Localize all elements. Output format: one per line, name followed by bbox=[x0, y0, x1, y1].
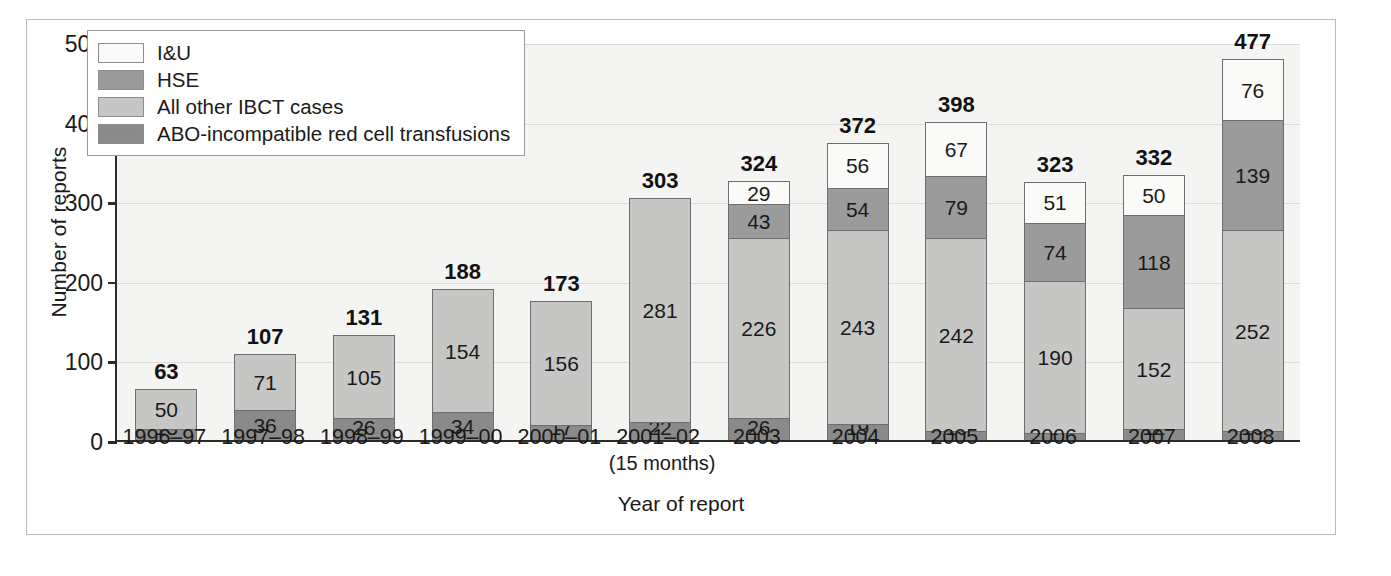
x-tick-label: 2004 bbox=[806, 424, 905, 451]
bar-segment-value: 281 bbox=[643, 300, 678, 321]
x-tick-label-text: 2005 bbox=[930, 425, 978, 449]
bar-segment-value: 139 bbox=[1235, 165, 1270, 186]
x-tick-label: 2005 bbox=[905, 424, 1004, 451]
bar-segment[interactable]: 54 bbox=[828, 189, 888, 232]
bar-segment-value: 50 bbox=[1142, 185, 1165, 206]
bar-segment[interactable]: 156 bbox=[531, 302, 591, 426]
bar-segment[interactable]: 281 bbox=[630, 199, 690, 423]
legend-item[interactable]: I&U bbox=[98, 39, 510, 66]
x-tick-label: 1998–99 bbox=[313, 424, 412, 451]
bar-segment[interactable]: 154 bbox=[433, 290, 493, 413]
chart-legend: I&UHSEAll other IBCT casesABO-incompatib… bbox=[87, 30, 525, 156]
y-tick-label: 200 bbox=[65, 269, 103, 296]
bar-segment[interactable]: 71 bbox=[235, 355, 295, 412]
x-tick-label: 2001–02(15 months) bbox=[609, 424, 708, 476]
bar-segment-value: 67 bbox=[945, 139, 968, 160]
bar-segment-value: 56 bbox=[846, 155, 869, 176]
x-axis-title: Year of report bbox=[27, 492, 1335, 516]
x-tick-label: 1997–98 bbox=[214, 424, 313, 451]
legend-item[interactable]: HSE bbox=[98, 66, 510, 93]
bar-segment-value: 154 bbox=[445, 341, 480, 362]
y-tick-mark bbox=[108, 282, 117, 285]
x-tick-label-text: 2001–02 bbox=[616, 425, 700, 449]
legend-item-label: HSE bbox=[157, 68, 199, 92]
x-tick-label: 2003 bbox=[708, 424, 807, 451]
x-tick-label-text: 2007 bbox=[1128, 425, 1176, 449]
x-tick-label-text: 2004 bbox=[832, 425, 880, 449]
bar-segment[interactable]: 226 bbox=[729, 239, 789, 419]
bar-segment[interactable]: 118 bbox=[1124, 216, 1184, 310]
bar-stack[interactable]: 192435456372 bbox=[827, 143, 889, 440]
legend-item-label: I&U bbox=[157, 41, 191, 65]
bar-segment[interactable]: 43 bbox=[729, 205, 789, 239]
bar-stack[interactable]: 1215211850332 bbox=[1123, 175, 1185, 440]
bar-total-label: 173 bbox=[543, 271, 580, 297]
legend-item[interactable]: All other IBCT cases bbox=[98, 93, 510, 120]
bar-segment[interactable]: 252 bbox=[1223, 231, 1283, 432]
x-tick-label-text: 1999–00 bbox=[419, 425, 503, 449]
figure-frame: Number of reports Year of report 0100200… bbox=[26, 19, 1336, 535]
legend-color-swatch bbox=[98, 124, 144, 144]
bar-segment[interactable]: 74 bbox=[1025, 224, 1085, 283]
legend-item[interactable]: ABO-incompatible red cell transfusions bbox=[98, 120, 510, 147]
bar-segment[interactable]: 152 bbox=[1124, 309, 1184, 430]
bar-segment[interactable]: 105 bbox=[334, 336, 394, 420]
bar-total-label: 324 bbox=[741, 151, 778, 177]
bar-segment[interactable]: 243 bbox=[828, 231, 888, 424]
bar-segment-value: 156 bbox=[544, 353, 579, 374]
bar-segment-value: 43 bbox=[747, 211, 770, 232]
bar-total-label: 188 bbox=[444, 259, 481, 285]
x-tick-label-text: 2003 bbox=[733, 425, 781, 449]
bar-segment[interactable]: 139 bbox=[1223, 121, 1283, 232]
bar-total-label: 63 bbox=[154, 359, 178, 385]
bar-stack[interactable]: 81907451323 bbox=[1024, 182, 1086, 440]
bar-segment-value: 226 bbox=[741, 318, 776, 339]
y-tick-mark bbox=[108, 361, 117, 364]
bar-total-label: 477 bbox=[1234, 29, 1271, 55]
x-tick-label-text: 2000–01 bbox=[518, 425, 602, 449]
bar-total-label: 398 bbox=[938, 92, 975, 118]
y-tick-label: 0 bbox=[90, 429, 103, 456]
bar-segment-value: 252 bbox=[1235, 321, 1270, 342]
y-tick-mark bbox=[108, 202, 117, 205]
bar-stack[interactable]: 102427967398 bbox=[925, 122, 987, 440]
bar-segment-value: 71 bbox=[253, 372, 276, 393]
legend-color-swatch bbox=[98, 97, 144, 117]
bar-segment[interactable]: 56 bbox=[828, 144, 888, 189]
bar-segment[interactable]: 50 bbox=[1124, 176, 1184, 216]
bar-segment[interactable]: 190 bbox=[1025, 282, 1085, 433]
bar-stack[interactable]: 34154188 bbox=[432, 289, 494, 440]
bar-total-label: 131 bbox=[346, 305, 383, 331]
bar-stack[interactable]: 1025213976477 bbox=[1222, 59, 1284, 440]
x-tick-sublabel: (15 months) bbox=[609, 451, 708, 476]
legend-item-label: All other IBCT cases bbox=[157, 95, 343, 119]
bar-segment-value: 243 bbox=[840, 317, 875, 338]
bar-stack[interactable]: 262264329324 bbox=[728, 181, 790, 440]
bar-stack[interactable]: 17156173 bbox=[530, 301, 592, 440]
x-tick-label-text: 2008 bbox=[1227, 425, 1275, 449]
bar-segment-value: 118 bbox=[1137, 252, 1170, 273]
x-tick-label: 2008 bbox=[1201, 424, 1300, 451]
bar-segment-value: 76 bbox=[1241, 80, 1264, 101]
bar-segment-value: 190 bbox=[1038, 347, 1073, 368]
bar-segment-value: 54 bbox=[846, 199, 869, 220]
bar-total-label: 107 bbox=[247, 324, 284, 350]
bar-segment[interactable]: 29 bbox=[729, 182, 789, 205]
bar-segment[interactable]: 67 bbox=[926, 123, 986, 176]
bar-segment-value: 51 bbox=[1043, 192, 1066, 213]
x-tick-label: 2006 bbox=[1004, 424, 1103, 451]
bar-segment[interactable]: 242 bbox=[926, 239, 986, 432]
bar-segment[interactable]: 51 bbox=[1025, 183, 1085, 224]
bar-stack[interactable]: 22281303 bbox=[629, 198, 691, 440]
x-tick-label-text: 1996–97 bbox=[123, 425, 207, 449]
bar-segment-value: 50 bbox=[155, 399, 178, 420]
x-tick-label-text: 1997–98 bbox=[221, 425, 305, 449]
bar-segment[interactable]: 76 bbox=[1223, 60, 1283, 120]
bar-total-label: 372 bbox=[839, 113, 876, 139]
bar-total-label: 323 bbox=[1037, 152, 1074, 178]
bar-segment[interactable]: 79 bbox=[926, 177, 986, 240]
bar-total-label: 332 bbox=[1136, 145, 1173, 171]
x-tick-label: 1999–00 bbox=[411, 424, 510, 451]
x-tick-label: 2000–01 bbox=[510, 424, 609, 451]
y-tick-label: 300 bbox=[65, 190, 103, 217]
